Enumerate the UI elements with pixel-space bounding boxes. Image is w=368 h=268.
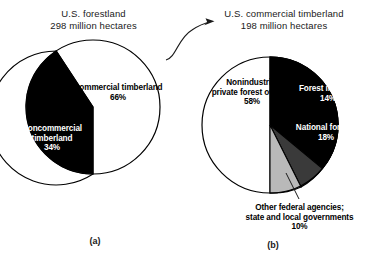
label-national-forests-line2: 18%	[288, 133, 364, 143]
label-noncommercial-timberland-line3: 34%	[10, 143, 94, 153]
panel-a-tag: (a)	[78, 236, 112, 246]
label-nonindustrial-private-forest-owners: Nonindustrial private forest owners 58%	[203, 78, 301, 107]
figure-two-pie-charts: U.S. forestland 298 million hectares U.S…	[0, 0, 368, 268]
panel-b-tag: (b)	[256, 240, 290, 250]
pie-chart-a	[0, 40, 160, 185]
label-forest-industry-line2: 14%	[292, 94, 364, 104]
label-forest-industry: Forest industry 14%	[292, 84, 364, 103]
label-noncommercial-timberland-line1: Noncommercial	[10, 124, 94, 134]
label-forest-industry-line1: Forest industry	[292, 84, 364, 94]
label-nonindustrial-line3: 58%	[203, 97, 301, 107]
label-commercial-timberland-line1: Commercial timberland	[64, 83, 172, 93]
label-national-forests-line1: National forests	[288, 123, 364, 133]
label-commercial-timberland: Commercial timberland 66%	[64, 83, 172, 102]
label-other-federal-line3: 10%	[233, 222, 366, 232]
label-nonindustrial-line1: Nonindustrial	[203, 78, 301, 88]
label-other-federal-line2: state and local governments	[233, 213, 366, 223]
label-other-federal-agencies: Other federal agencies; state and local …	[233, 203, 366, 232]
label-commercial-timberland-line2: 66%	[64, 93, 172, 103]
label-noncommercial-timberland-line2: timberland	[10, 134, 94, 144]
label-national-forests: National forests 18%	[288, 123, 364, 142]
label-other-federal-line1: Other federal agencies;	[233, 203, 366, 213]
label-nonindustrial-line2: private forest owners	[203, 88, 301, 98]
connector-arrow-icon	[166, 18, 215, 60]
label-noncommercial-timberland: Noncommercial timberland 34%	[10, 124, 94, 153]
